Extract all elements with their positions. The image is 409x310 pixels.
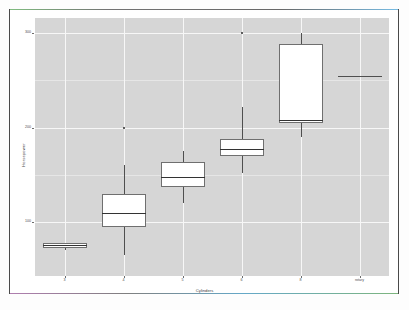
median-rotary (338, 76, 382, 77)
y-tick-mark-300 (32, 33, 34, 34)
y-tick-mark-200 (32, 128, 34, 129)
frame-bottom-edge (10, 293, 398, 294)
frame-top-edge (10, 9, 398, 10)
x-tick-label-6: 6 (222, 279, 262, 283)
x-axis-label: Cylinders (0, 288, 409, 293)
x-tick-label-rotary: rotary (340, 279, 380, 283)
y-tick-mark-100 (32, 222, 34, 223)
plot-panel (35, 18, 389, 276)
x-tick-label-5: 5 (163, 279, 203, 283)
x-tick-label-8: 8 (281, 279, 321, 283)
boxplot-rotary[interactable] (35, 18, 389, 276)
y-tick-label-300: 300 (16, 31, 31, 35)
y-tick-label-200: 200 (16, 126, 31, 130)
y-axis-label: Horsepower (21, 143, 26, 167)
figure-canvas: Horsepower Cylinders 10020030034568rotar… (0, 0, 409, 310)
x-tick-label-4: 4 (104, 279, 144, 283)
y-tick-label-100: 100 (16, 220, 31, 224)
x-tick-label-3: 3 (45, 279, 85, 283)
